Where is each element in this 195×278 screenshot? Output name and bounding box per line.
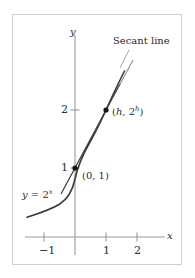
y-tick-label-2: 2 — [61, 104, 68, 115]
curve-label-exponent: x — [49, 188, 53, 196]
secant-line-label: Secant line — [113, 36, 170, 46]
point-marker-origin — [72, 165, 77, 170]
secant-label-leader — [120, 50, 129, 68]
curve-equation-label: y = 2x — [22, 190, 53, 200]
x-tick-label-1: 1 — [103, 245, 110, 256]
point-h-label: (h, 2h) — [112, 107, 143, 117]
y-tick-label-1: 1 — [61, 162, 68, 173]
x-tick-label-2: 2 — [134, 245, 141, 256]
curve-label-equals: = — [28, 189, 43, 200]
figure-root: x y −1 1 2 1 2 Secant line (h, 2h) (0, 1… — [0, 0, 195, 278]
x-tick-label-minus1: −1 — [39, 245, 55, 256]
y-axis-label: y — [70, 27, 76, 37]
point-marker-h — [103, 107, 108, 112]
point-h-label-mid: , 2 — [122, 106, 135, 117]
point-h-label-close: ) — [139, 106, 143, 117]
x-axis-label: x — [167, 231, 173, 241]
secant-line-extension — [118, 60, 133, 88]
point-origin-label: (0, 1) — [82, 171, 109, 181]
